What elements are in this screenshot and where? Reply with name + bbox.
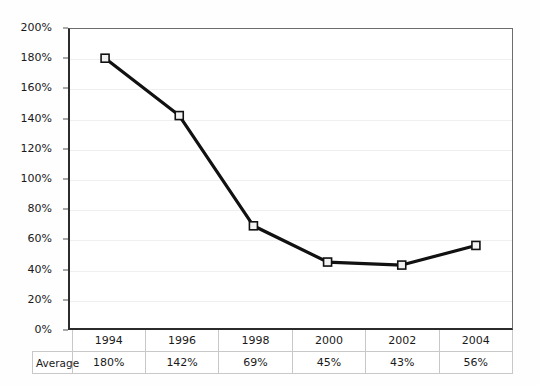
gridline	[70, 89, 512, 90]
table-category-cell: 1996	[145, 330, 218, 352]
gridline	[70, 120, 512, 121]
table-row-header: Average	[33, 352, 73, 374]
y-axis-tick-label: 20%	[28, 294, 52, 306]
table-value-cell: 180%	[72, 352, 145, 374]
y-axis-tick-label: 40%	[28, 264, 52, 276]
table-category-cell: 2002	[366, 330, 439, 352]
table-category-cell: 1994	[72, 330, 145, 352]
y-axis-tick-label: 120%	[21, 143, 52, 155]
table-category-cell: 2004	[439, 330, 512, 352]
table-category-cell: 1998	[219, 330, 292, 352]
y-axis: 0%20%40%60%80%100%120%140%160%180%200%	[0, 0, 62, 385]
y-axis-tick-label: 60%	[28, 233, 52, 245]
y-axis-tick-label: 100%	[21, 173, 52, 185]
table-corner-cell	[33, 330, 73, 352]
table-value-cell: 45%	[292, 352, 365, 374]
chart-container: 0%20%40%60%80%100%120%140%160%180%200% 1…	[0, 0, 540, 385]
table-value-cell: 56%	[439, 352, 512, 374]
y-axis-tick-label: 180%	[21, 52, 52, 64]
gridline	[70, 301, 512, 302]
y-axis-tick-label: 140%	[21, 113, 52, 125]
table-value-cell: 69%	[219, 352, 292, 374]
table-row-categories: 199419961998200020022004	[33, 330, 513, 352]
y-axis-tick-label: 80%	[28, 203, 52, 215]
plot-area	[68, 28, 513, 330]
data-table: 199419961998200020022004 Average 180%142…	[32, 330, 513, 374]
table-value-cell: 142%	[145, 352, 218, 374]
table-category-cell: 2000	[292, 330, 365, 352]
gridline	[70, 210, 512, 211]
gridline	[70, 180, 512, 181]
gridline	[70, 150, 512, 151]
y-axis-tick-label: 200%	[21, 22, 52, 34]
gridline	[70, 240, 512, 241]
gridline	[70, 59, 512, 60]
gridline	[70, 271, 512, 272]
y-axis-tick-label: 160%	[21, 82, 52, 94]
table-value-cell: 43%	[366, 352, 439, 374]
table-row-average: Average 180%142%69%45%43%56%	[33, 352, 513, 374]
